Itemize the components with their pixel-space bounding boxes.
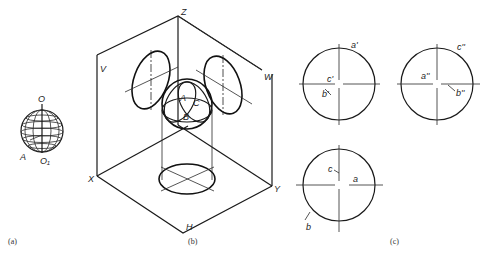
label-B: B xyxy=(183,112,189,122)
label-H: H xyxy=(186,222,193,232)
panel-a-globe: O A O₁ (a) xyxy=(8,94,63,246)
label-c: c xyxy=(328,164,333,174)
label-Z: Z xyxy=(180,7,187,17)
label-b: b xyxy=(306,222,311,232)
sphere-projection-figure: O A O₁ (a) A C B xyxy=(0,0,490,257)
label-o: O xyxy=(38,94,45,104)
label-a-prime: a' xyxy=(351,40,358,50)
label-b-double-prime: b'' xyxy=(456,88,465,98)
label-X: X xyxy=(87,174,95,184)
label-a-double-prime: a'' xyxy=(421,71,430,81)
side-view: c'' a'' b'' xyxy=(397,42,480,125)
caption-b: (b) xyxy=(188,237,198,246)
label-a: a xyxy=(353,174,358,184)
label-V: V xyxy=(100,64,107,74)
panel-b-isometric: A C B Z V W X Y H (b) xyxy=(87,7,281,246)
panel-c-orthographic: a' c' b' c'' a'' b'' c a b xyxy=(296,40,480,246)
label-c-double-prime: c'' xyxy=(457,42,465,52)
label-Y: Y xyxy=(274,184,281,194)
label-o1: O₁ xyxy=(40,156,50,166)
top-view: c a b xyxy=(296,145,383,232)
caption-c: (c) xyxy=(390,237,399,246)
label-c-prime: c' xyxy=(327,74,334,84)
caption-a: (a) xyxy=(8,237,17,246)
label-C: C xyxy=(193,98,200,108)
label-a: A xyxy=(19,152,26,162)
front-view: a' c' b' xyxy=(299,40,380,125)
label-b-prime: b' xyxy=(322,89,329,99)
label-A: A xyxy=(179,93,186,103)
